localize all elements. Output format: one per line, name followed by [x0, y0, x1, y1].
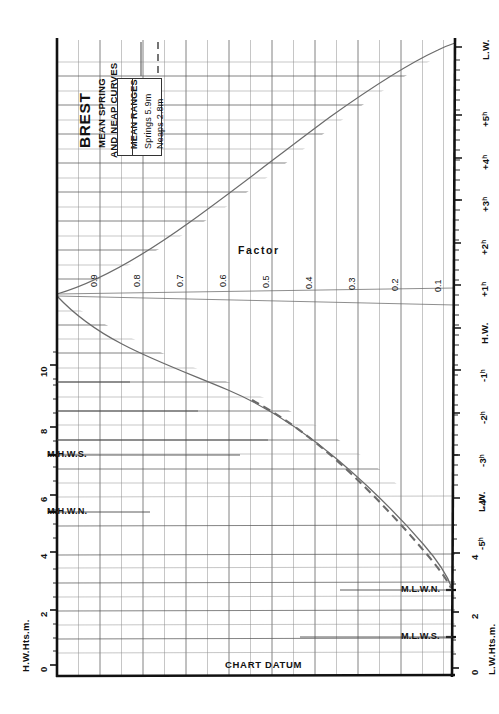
factor-label-0-7: 0.7 [175, 274, 185, 287]
marker-mlws-label: M.L.W.S. [401, 631, 440, 641]
subtitle-line-1: MEAN SPRING [96, 78, 107, 148]
right-time-plus3: +3ʰ [480, 197, 491, 212]
right-tick-2: 2 [469, 614, 480, 619]
right-time-lw-top: L.W. [480, 39, 491, 60]
chart-canvas [0, 0, 499, 714]
factor-label-0-3: 0.3 [347, 277, 357, 290]
left-tick-10: 10 [38, 366, 49, 377]
legend-heading: MEAN RANGES [129, 79, 139, 149]
right-time-minus2: -2ʰ [478, 411, 489, 424]
marker-mhwn-label: M.H.W.N. [47, 506, 87, 516]
spring-curve-lower [57, 296, 452, 588]
factor-label-0-2: 0.2 [390, 278, 400, 291]
right-datum-markers [300, 590, 456, 637]
right-axis-title: L.W.Hts.m. [486, 623, 497, 675]
left-tick-4: 4 [38, 554, 49, 559]
marker-mlwn-label: M.L.W.N. [401, 584, 440, 594]
mean-ranges-legend: MEAN RANGES Springs 5.9m Neaps 2.8m [117, 78, 162, 156]
factor-label-0-9: 0.9 [89, 274, 99, 287]
legend-sample-lines [141, 42, 158, 76]
left-tick-2: 2 [38, 612, 49, 617]
factor-label-0-1: 0.1 [433, 279, 443, 292]
grid-horizontal-lower [57, 525, 455, 639]
right-time-minus1: -1ʰ [478, 369, 489, 382]
legend-neaps-label: Neaps 2.8m [155, 98, 165, 149]
factor-label-0-8: 0.8 [132, 274, 142, 287]
legend-divider [132, 79, 133, 155]
right-time-minus3: -3ʰ [477, 454, 488, 467]
left-tick-0: 0 [38, 667, 49, 672]
right-time-plus2: +2ʰ [479, 240, 490, 255]
right-time-minus5: -5ʰ [476, 537, 487, 550]
right-time-lw-bottom: L.W. [476, 491, 487, 512]
left-axis-title: H.W.Hts.m. [20, 619, 31, 672]
factor-axis-title: Factor [238, 244, 280, 256]
grid-horizontal-lower-wedge-minor [57, 311, 455, 483]
right-time-plus5: +5ʰ [480, 112, 491, 127]
marker-mhws-label: M.H.W.S. [47, 449, 87, 459]
left-tick-8: 8 [38, 429, 49, 434]
chart-datum-label: CHART DATUM [225, 659, 302, 670]
left-tick-6: 6 [38, 497, 49, 502]
factor-label-0-6: 0.6 [218, 274, 228, 287]
bottom-axis-line [56, 675, 455, 676]
tidal-curve-diagram: BREST MEAN SPRING AND NEAP CURVES MEAN R… [0, 0, 499, 714]
page-title: BREST [76, 92, 94, 148]
right-time-plus4: +4ʰ [480, 155, 491, 170]
factor-label-0-4: 0.4 [304, 276, 314, 289]
legend-springs-label: Springs 5.9m [143, 94, 153, 149]
right-tick-0: 0 [469, 670, 480, 675]
right-axis-line [452, 38, 455, 677]
right-time-plus1: +1ʰ [479, 282, 490, 297]
right-tick-4: 4 [469, 555, 480, 560]
left-datum-markers [48, 455, 240, 512]
neap-curve-lower [252, 400, 451, 588]
factor-label-0-5: 0.5 [261, 275, 271, 288]
right-time-hw: H.W. [479, 322, 490, 344]
